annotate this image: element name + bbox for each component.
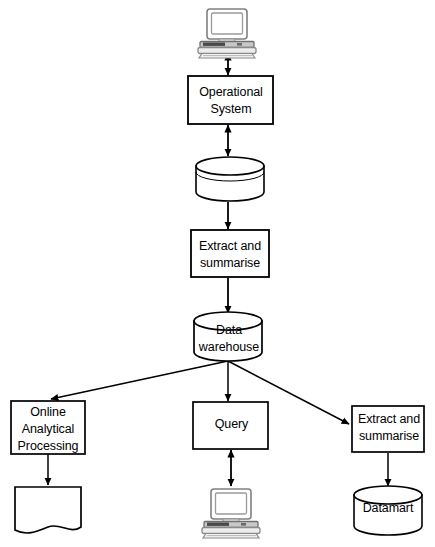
datamart-cylinder [354,486,422,535]
operational-database-cylinder [196,157,264,201]
computer-icon-top [198,9,256,58]
online-analytical-processing-box [11,401,85,454]
query-box [193,402,268,449]
data-warehouse-cylinder [194,312,262,361]
data-warehouse-diagram [0,0,435,547]
report-document-shape [15,487,81,533]
operational-system-box [188,76,273,124]
extract-and-summarise-box-bottom [352,406,424,452]
edge-data-warehouse-to-olap [51,361,228,399]
extract-and-summarise-box-top [191,230,269,277]
computer-icon-bottom [202,489,260,538]
